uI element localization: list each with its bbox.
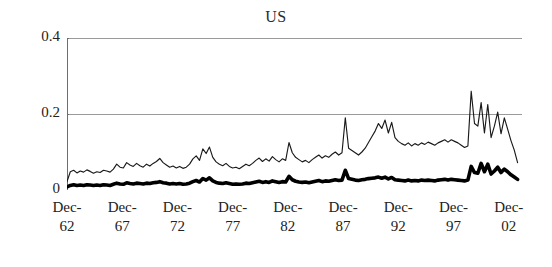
x-tick-label: Dec-62 <box>37 198 97 236</box>
x-tick-label-line1: Dec- <box>203 198 263 217</box>
x-axis-labels: Dec-62Dec-67Dec-72Dec-77Dec-82Dec-87Dec-… <box>0 198 552 258</box>
x-tick-label: Dec-87 <box>313 198 373 236</box>
x-tick-label-line1: Dec- <box>313 198 373 217</box>
plot-svg <box>67 38 522 190</box>
x-tick-label-line1: Dec- <box>258 198 318 217</box>
x-tick-label-line2: 72 <box>147 217 207 236</box>
x-tick-label: Dec-67 <box>92 198 152 236</box>
x-tick-label-line1: Dec- <box>147 198 207 217</box>
x-tick-label: Dec-82 <box>258 198 318 236</box>
x-tick-label-line1: Dec- <box>37 198 97 217</box>
x-tick-label: Dec-72 <box>147 198 207 236</box>
gridlines <box>67 38 522 190</box>
series-line-lower-thick <box>67 163 518 187</box>
chart-title: US <box>0 8 552 26</box>
plot-area <box>67 38 522 190</box>
x-tick-label: Dec-02 <box>479 198 539 236</box>
x-tick-label-line1: Dec- <box>479 198 539 217</box>
x-tick-label: Dec-97 <box>424 198 484 236</box>
x-tick-label-line2: 67 <box>92 217 152 236</box>
y-tick-label: 0 <box>53 181 61 196</box>
x-tick-label-line1: Dec- <box>368 198 428 217</box>
data-series-group <box>67 91 518 187</box>
x-tick-label-line2: 92 <box>368 217 428 236</box>
y-tick-label: 0.2 <box>41 105 60 120</box>
x-tick-label: Dec-77 <box>203 198 263 236</box>
y-tick-label: 0.4 <box>41 29 60 44</box>
x-tick-label-line2: 77 <box>203 217 263 236</box>
chart-container: US 00.20.4 Dec-62Dec-67Dec-72Dec-77Dec-8… <box>0 0 552 267</box>
x-tick-label-line2: 62 <box>37 217 97 236</box>
x-tick-label-line2: 82 <box>258 217 318 236</box>
x-tick-label: Dec-92 <box>368 198 428 236</box>
x-tick-label-line1: Dec- <box>424 198 484 217</box>
x-tick-label-line2: 87 <box>313 217 373 236</box>
x-tick-label-line1: Dec- <box>92 198 152 217</box>
x-tick-label-line2: 97 <box>424 217 484 236</box>
x-tick-label-line2: 02 <box>479 217 539 236</box>
series-line-upper-thin <box>67 91 518 181</box>
